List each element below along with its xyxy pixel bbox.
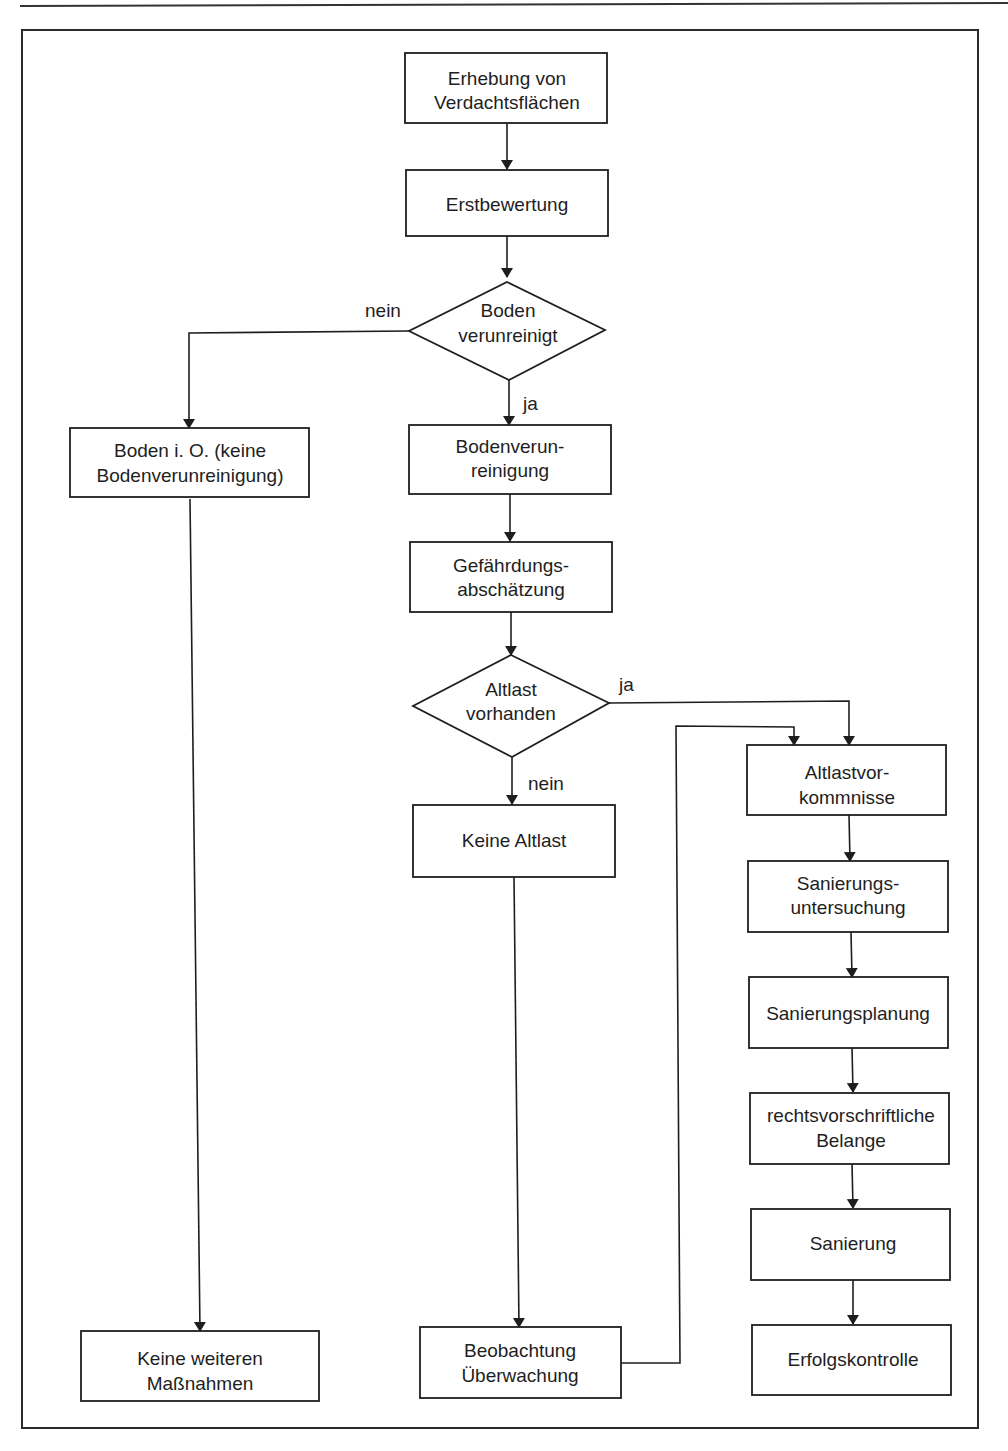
decision-boden-verunreinigt: Boden verunreinigt: [409, 282, 605, 380]
node-rechtsvorschriftliche-belange: rechtsvorschriftliche Belange: [750, 1093, 949, 1164]
svg-text:Bodenverunreinigung): Bodenverunreinigung): [97, 465, 284, 486]
svg-text:verunreinigt: verunreinigt: [458, 325, 558, 346]
node-bodenverunreinigung: Bodenverun- reinigung: [409, 425, 611, 494]
svg-text:Beobachtung: Beobachtung: [464, 1340, 576, 1361]
svg-text:Boden: Boden: [481, 300, 536, 321]
svg-text:Sanierung: Sanierung: [810, 1233, 897, 1254]
svg-text:Erfolgskontrolle: Erfolgskontrolle: [788, 1349, 919, 1370]
svg-text:kommnisse: kommnisse: [799, 787, 895, 808]
node-erstbewertung: Erstbewertung: [406, 170, 608, 236]
decision-altlast-vorhanden: Altlast vorhanden: [413, 655, 609, 757]
svg-text:Gefährdungs-: Gefährdungs-: [453, 555, 569, 576]
svg-text:Bodenverun-: Bodenverun-: [456, 436, 565, 457]
svg-text:Erhebung von: Erhebung von: [448, 68, 566, 89]
page-top-rule: [20, 3, 1008, 6]
svg-text:untersuchung: untersuchung: [790, 897, 905, 918]
node-gefaehrdungsabschaetzung: Gefährdungs- abschätzung: [410, 542, 612, 612]
svg-text:Belange: Belange: [816, 1130, 886, 1151]
svg-text:rechtsvorschriftliche: rechtsvorschriftliche: [767, 1105, 935, 1126]
node-erhebung-verdachtsflaechen: Erhebung von Verdachtsflächen: [405, 53, 607, 123]
svg-text:Boden i. O. (keine: Boden i. O. (keine: [114, 440, 266, 461]
svg-text:Überwachung: Überwachung: [461, 1365, 578, 1386]
svg-text:Maßnahmen: Maßnahmen: [147, 1373, 254, 1394]
svg-text:Sanierungs-: Sanierungs-: [797, 873, 899, 894]
flowchart: Erhebung von Verdachtsflächen Erstbewert…: [0, 0, 1008, 1451]
node-beobachtung-ueberwachung: Beobachtung Überwachung: [420, 1327, 621, 1398]
svg-text:Sanierungsplanung: Sanierungsplanung: [766, 1003, 930, 1024]
node-keine-weiteren-massnahmen: Keine weiteren Maßnahmen: [81, 1331, 319, 1401]
label-altlast-ja: ja: [618, 674, 634, 695]
svg-text:Verdachtsflächen: Verdachtsflächen: [434, 92, 580, 113]
node-sanierungsplanung: Sanierungsplanung: [749, 977, 948, 1048]
svg-text:Erstbewertung: Erstbewertung: [446, 194, 569, 215]
node-sanierungsuntersuchung: Sanierungs- untersuchung: [748, 861, 948, 932]
svg-text:Altlastvor-: Altlastvor-: [805, 762, 889, 783]
label-boden-ja: ja: [522, 393, 538, 414]
svg-text:abschätzung: abschätzung: [457, 579, 565, 600]
node-altlastvorkommnisse: Altlastvor- kommnisse: [747, 745, 946, 815]
node-keine-altlast: Keine Altlast: [413, 805, 615, 877]
svg-text:Altlast: Altlast: [485, 679, 537, 700]
label-boden-nein: nein: [365, 300, 401, 321]
svg-text:reinigung: reinigung: [471, 460, 549, 481]
node-sanierung: Sanierung: [751, 1209, 950, 1280]
node-erfolgskontrolle: Erfolgskontrolle: [752, 1325, 951, 1395]
svg-text:Keine weiteren: Keine weiteren: [137, 1348, 263, 1369]
label-altlast-nein: nein: [528, 773, 564, 794]
svg-text:vorhanden: vorhanden: [466, 703, 556, 724]
node-boden-io: Boden i. O. (keine Bodenverunreinigung): [70, 428, 309, 497]
svg-text:Keine Altlast: Keine Altlast: [462, 830, 567, 851]
